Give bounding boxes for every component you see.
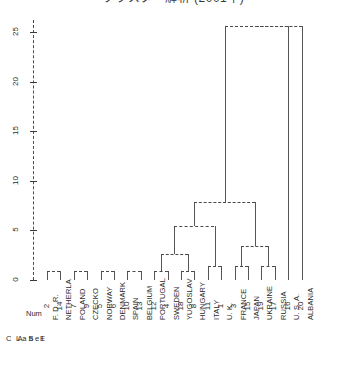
leaf-label: BELGIUM [134, 320, 148, 388]
leaf-label: UKRAINE [254, 320, 268, 388]
dendrogram-link [154, 271, 167, 272]
leaf-label: DENMARK [107, 320, 121, 388]
dendrogram-branch [141, 271, 142, 280]
dendrogram-branch [248, 266, 249, 280]
dendrogram-branch [114, 271, 115, 280]
dendrogram-branch [255, 202, 256, 247]
leaf-label-text: ALBANIA [306, 288, 315, 320]
leaf-label: SPAIN [120, 320, 134, 388]
leaf-label: PORTUGAL [147, 320, 161, 388]
leaf-label: FRANCE [228, 320, 242, 388]
dendrogram-link [241, 246, 268, 247]
dendrogram-branch [194, 271, 195, 280]
leaf-label-text: SWEDEN [172, 286, 181, 320]
y-axis-tick-label: 15 [11, 119, 20, 143]
dendrogram-branch [127, 271, 128, 280]
leaf-label-text: CZECKO [91, 288, 100, 320]
leaf-label-text: NORWAY [105, 287, 114, 320]
dendrogram-branch [154, 271, 155, 280]
leaf-label-text: UKRAINE [265, 286, 274, 320]
dendrogram-branch [168, 271, 169, 280]
dendrogram-branch [194, 202, 195, 227]
y-axis-tick-label: 25 [11, 19, 20, 43]
leaf-label: ITALY [201, 320, 215, 388]
dendrogram-branch [288, 26, 289, 280]
dendrogram-link [208, 266, 221, 267]
leaf-label-text: FRANCE [239, 289, 248, 320]
dendrogram-plot [33, 20, 347, 280]
leaf-label: U. S. A. [281, 320, 295, 388]
leaf-label-text: HUNGARY [198, 282, 207, 320]
dendrogram-branch [174, 226, 175, 254]
dendrogram-branch [60, 271, 61, 280]
dendrogram-link [174, 226, 214, 227]
leaf-label: JAPAN [241, 320, 255, 388]
dendrogram-link [74, 271, 87, 272]
dendrogram-branch [208, 266, 209, 280]
leaf-label-text: U. K. [225, 303, 234, 320]
dendrogram-branch [261, 266, 262, 280]
leaf-label-text: F. D. R. [51, 294, 60, 320]
dendrogram-branch [302, 26, 303, 280]
dendrogram-link [194, 202, 254, 203]
leaf-label-text: POLAND [78, 289, 87, 320]
leaf-label-text: PORTUGAL [158, 278, 167, 320]
dendrogram-branch [181, 271, 182, 280]
dendrogram-branch [87, 271, 88, 280]
dendrogram-link [161, 254, 188, 255]
leaf-label-text: RUSSIA [279, 291, 288, 320]
page-title: クラスター解析 (2001年) [0, 0, 347, 5]
dendrogram-branch [101, 271, 102, 280]
dendrogram-link [181, 271, 194, 272]
leaf-label: YUGOSLAV [174, 320, 188, 388]
leaf-label: SWEDEN [161, 320, 175, 388]
leaf-label: HUNGARY [187, 320, 201, 388]
leaf-label-text: ITALY [212, 300, 221, 320]
dendrogram-link [127, 271, 140, 272]
dendrogram-branch [275, 266, 276, 280]
dendrogram-figure: クラスター解析 (2001年) 0510152025 C A S E Label… [0, 0, 347, 389]
dendrogram-branch [47, 271, 48, 280]
leaf-label-text: YUGOSLAV [185, 278, 194, 320]
dendrogram-branch [221, 266, 222, 280]
leaf-label-text: SPAIN [131, 298, 140, 320]
leaf-label-text: U. S. A. [292, 294, 301, 320]
leaf-label-text: JAPAN [252, 296, 261, 320]
dendrogram-branch [225, 26, 226, 202]
dendrogram-branch [161, 254, 162, 271]
leaf-label: CZECKO [80, 320, 94, 388]
dendrogram-link [101, 271, 114, 272]
dendrogram-branch [235, 266, 236, 280]
dendrogram-branch [74, 271, 75, 280]
dendrogram-branch [241, 246, 242, 266]
dendrogram-link [235, 266, 248, 267]
leaf-label-text: DENMARK [118, 282, 127, 320]
dendrogram-link [261, 266, 274, 267]
dendrogram-link [256, 26, 301, 27]
leaf-label: ALBANIA [295, 320, 309, 388]
leaf-label: POLAND [67, 320, 81, 388]
axis-captions: C A S E Label Num [0, 296, 33, 388]
y-axis-tick-label: 0 [11, 268, 20, 292]
leaf-label-text: BELGIUM [145, 286, 154, 320]
y-axis-tick-label: 20 [11, 69, 20, 93]
leaf-label-text: NETHERLA [64, 279, 73, 320]
dendrogram-branch [188, 254, 189, 271]
y-axis-tick [30, 280, 37, 281]
leaf-label: NETHERLA [53, 320, 67, 388]
dendrogram-branch [268, 246, 269, 266]
leaf-label: F. D. R. [40, 320, 54, 388]
leaf-label: RUSSIA [268, 320, 282, 388]
dendrogram-branch [215, 226, 216, 266]
y-axis-tick-label: 10 [11, 168, 20, 192]
y-axis-tick-label: 5 [11, 218, 20, 242]
leaf-label: U. K. [214, 320, 228, 388]
leaf-label: NORWAY [94, 320, 108, 388]
dendrogram-link [47, 271, 60, 272]
